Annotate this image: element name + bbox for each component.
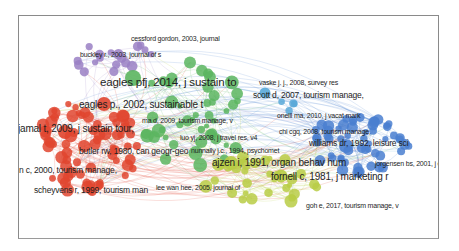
node-label[interactable]: ma d, 2009, tourism manage, v (142, 117, 233, 124)
network-node[interactable] (49, 175, 56, 182)
node-label[interactable]: luo yj, 2008, j travel res, v4 (180, 134, 257, 141)
node-label[interactable]: scott d, 2007, tourism manage, (253, 91, 364, 100)
node-label[interactable]: goh e, 2017, tourism manage, v (306, 202, 398, 209)
network-node[interactable] (371, 149, 380, 158)
network-node[interactable] (264, 188, 273, 197)
node-label[interactable]: n c, 2000, tourism manage, (19, 166, 117, 175)
network-node[interactable] (184, 56, 196, 68)
node-label[interactable]: jorgensen bs, 2001, j env (375, 160, 439, 167)
network-node[interactable] (196, 65, 208, 77)
node-label[interactable]: fornell c, 1981, j marketing r (271, 172, 388, 182)
node-label[interactable]: oneill ma, 2010, j vacat mark (277, 112, 360, 119)
network-node[interactable] (163, 135, 169, 141)
network-node[interactable] (239, 195, 247, 203)
network-node[interactable] (209, 99, 216, 106)
network-node[interactable] (121, 58, 130, 67)
network-node[interactable] (65, 101, 71, 107)
network-node[interactable] (141, 129, 151, 139)
node-label[interactable]: chi cgq, 2008, tourism manage, (279, 128, 371, 135)
node-label[interactable]: nunnally j.c., 1994, psychomet (191, 147, 279, 154)
network-node[interactable] (112, 60, 120, 68)
network-node[interactable] (198, 126, 205, 133)
network-node[interactable] (113, 157, 120, 164)
network-node[interactable] (72, 104, 78, 110)
network-node[interactable] (204, 124, 209, 129)
node-label[interactable]: cessford gordon, 2003, journal (131, 35, 220, 42)
node-label[interactable]: scheyvens r, 1999, tourism man (34, 186, 148, 195)
network-node[interactable] (122, 159, 134, 171)
network-node[interactable] (242, 178, 252, 188)
network-node[interactable] (122, 172, 129, 179)
node-label[interactable]: jamal t, 2009, j sustain tour, (18, 124, 134, 134)
node-label[interactable]: vaske j. j., 2008, survey res (259, 79, 338, 86)
network-node[interactable] (86, 43, 93, 50)
network-node[interactable] (44, 136, 54, 146)
node-label[interactable]: williams dr, 1992, leisure sci (309, 139, 408, 148)
node-label[interactable]: buckley r., 2003, journal of s (80, 51, 161, 58)
network-node[interactable] (228, 100, 238, 110)
network-node[interactable] (285, 195, 298, 208)
network-node[interactable] (246, 193, 258, 205)
network-node[interactable] (291, 101, 298, 108)
network-node[interactable] (159, 127, 166, 134)
node-label[interactable]: butler rw, 1980, can geogr-geo (79, 147, 188, 156)
node-label[interactable]: ajzen i, 1991, organ behav hum (212, 158, 346, 168)
network-node[interactable] (370, 116, 379, 125)
network-node[interactable] (349, 118, 356, 125)
network-node[interactable] (74, 60, 84, 70)
network-node[interactable] (383, 122, 390, 129)
node-label[interactable]: lee wan hee, 2005, journal of (156, 184, 240, 191)
network-node[interactable] (397, 147, 405, 155)
network-node[interactable] (312, 183, 321, 192)
network-node[interactable] (83, 112, 94, 123)
network-node[interactable] (193, 158, 207, 172)
network-node[interactable] (224, 108, 230, 114)
node-label[interactable]: eagles p., 2002, sustainable t (79, 100, 203, 110)
network-node[interactable] (137, 42, 144, 49)
network-node[interactable] (282, 184, 290, 192)
network-node[interactable] (92, 59, 98, 65)
node-label[interactable]: eagles pfj, 2014, j sustain to (100, 77, 237, 89)
network-canvas[interactable]: cessford gordon, 2003, journal buckley r… (18, 15, 439, 239)
network-node[interactable] (62, 147, 73, 158)
